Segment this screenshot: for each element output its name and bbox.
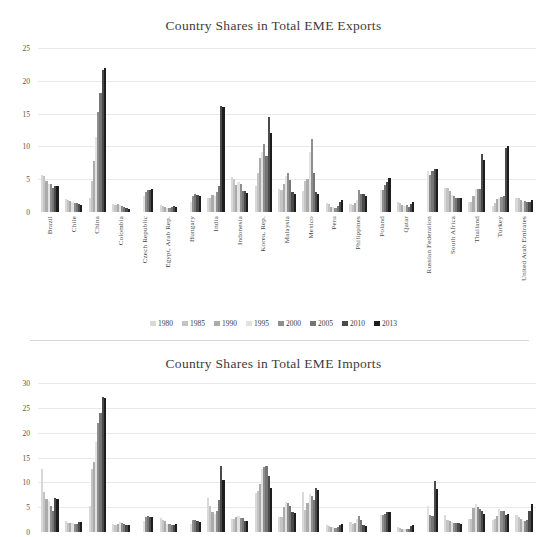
bar-philippines-2013 [365, 526, 367, 532]
x-axis-labels-exports: BrazilChileChinaColombiaCzech RepublicEg… [0, 216, 547, 316]
bar-group-egypt-arab-rep [160, 383, 178, 532]
bar-chile-2013 [80, 205, 82, 212]
x-tick-label-chile: Chile [70, 216, 78, 232]
legend-label: 2013 [382, 319, 397, 328]
bar-group-hungary [183, 383, 201, 532]
bar-india-2013 [222, 480, 224, 532]
bar-malaysia-2013 [294, 194, 296, 212]
x-tick-label-united-arab-emirates: United Arab Emirates [520, 216, 528, 281]
bar-china-2013 [104, 68, 106, 212]
bar-malaysia-2013 [294, 513, 296, 532]
bar-china-2013 [104, 398, 106, 532]
legend-exports: 19801985199019952000200520102013 [0, 319, 547, 328]
bar-group-thailand [468, 48, 486, 212]
bar-czech-republic-2013 [151, 189, 153, 212]
bar-group-south-africa [444, 48, 462, 212]
x-tick-label-mexico: Mexico [307, 216, 315, 239]
bar-south-africa-2013 [460, 524, 462, 532]
bar-chile-2013 [80, 522, 82, 532]
x-tick-label-india: India [212, 216, 220, 231]
bar-group-united-arab-emirates [515, 383, 533, 532]
bar-colombia-2013 [128, 209, 130, 212]
bar-group-peru [326, 48, 344, 212]
x-tick-label-brazil: Brazil [46, 216, 54, 234]
legend-item-2013[interactable]: 2013 [374, 319, 397, 328]
legend-label: 1995 [254, 319, 269, 328]
legend-item-1985[interactable]: 1985 [182, 319, 205, 328]
x-tick-label-malaysia: Malaysia [283, 216, 291, 243]
bar-group-hungary [183, 48, 201, 212]
bar-group-brazil [41, 383, 59, 532]
y-tick-label: 30 [6, 379, 30, 388]
bar-russian-federation-2013 [436, 169, 438, 212]
bar-group-czech-republic [136, 48, 154, 212]
bar-group-indonesia [231, 48, 249, 212]
x-tick-label-south-africa: South Africa [449, 216, 457, 254]
bar-turkey-2013 [507, 514, 509, 532]
bar-group-malaysia [278, 48, 296, 212]
bar-korea-rep-2013 [270, 488, 272, 532]
bar-indonesia-2013 [246, 193, 248, 212]
legend-swatch-icon [150, 321, 156, 327]
legend-label: 1985 [190, 319, 205, 328]
x-tick-label-thailand: Thailand [473, 216, 481, 242]
bar-group-russian-federation [421, 48, 439, 212]
bar-group-mexico [302, 383, 320, 532]
bar-mexico-2013 [317, 490, 319, 532]
y-tick-label: 25 [6, 44, 30, 53]
x-tick-label-egypt-arab-rep: Egypt, Arab Rep. [164, 216, 172, 268]
y-tick-label: 20 [6, 76, 30, 85]
bar-thailand-2013 [483, 160, 485, 212]
legend-item-2000[interactable]: 2000 [278, 319, 301, 328]
legend-item-1990[interactable]: 1990 [214, 319, 237, 328]
bar-group-india [207, 383, 225, 532]
y-tick-label: 10 [6, 142, 30, 151]
bar-group-czech-republic [136, 383, 154, 532]
panel-divider [30, 340, 529, 341]
chart-title-exports: Country Shares in Total EME Exports [0, 18, 547, 34]
bar-group-poland [373, 383, 391, 532]
bar-group-china [89, 48, 107, 212]
legend-item-2010[interactable]: 2010 [342, 319, 365, 328]
y-axis-imports: 051015202530 [0, 383, 30, 532]
x-tick-label-poland: Poland [378, 216, 386, 237]
bar-group-korea-rep [255, 48, 273, 212]
legend-swatch-icon [246, 321, 252, 327]
x-tick-label-korea-rep: Korea, Rep. [259, 216, 267, 252]
bar-group-philippines [349, 48, 367, 212]
bar-south-africa-2013 [460, 198, 462, 212]
bar-series-exports [38, 48, 536, 212]
x-tick-label-hungary: Hungary [188, 216, 196, 242]
bar-czech-republic-2013 [151, 517, 153, 532]
chart-title-imports: Country Shares in Total EME Imports [0, 356, 547, 372]
legend-label: 2010 [350, 319, 365, 328]
legend-item-1980[interactable]: 1980 [150, 319, 173, 328]
x-tick-label-russian-federation: Russian Federation [425, 216, 433, 273]
bar-group-indonesia [231, 383, 249, 532]
chart-panel-imports: Country Shares in Total EME Imports 0510… [0, 340, 547, 532]
y-tick-label: 5 [6, 175, 30, 184]
legend-item-2005[interactable]: 2005 [310, 319, 333, 328]
legend-item-1995[interactable]: 1995 [246, 319, 269, 328]
x-tick-label-indonesia: Indonesia [236, 216, 244, 245]
bar-thailand-2013 [483, 514, 485, 532]
bar-poland-2013 [388, 512, 390, 532]
bar-group-china [89, 383, 107, 532]
bar-hungary-2013 [199, 196, 201, 212]
legend-swatch-icon [342, 321, 348, 327]
bar-egypt-arab-rep-2013 [175, 207, 177, 212]
bar-turkey-2013 [507, 146, 509, 212]
bar-india-2013 [222, 107, 224, 212]
bar-peru-2013 [341, 524, 343, 532]
bar-group-india [207, 48, 225, 212]
bar-group-united-arab-emirates [515, 48, 533, 212]
legend-swatch-icon [310, 321, 316, 327]
bar-series-imports [38, 383, 536, 532]
bar-egypt-arab-rep-2013 [175, 524, 177, 532]
legend-swatch-icon [278, 321, 284, 327]
legend-label: 1990 [222, 319, 237, 328]
bar-group-qatar [397, 383, 415, 532]
bar-peru-2013 [341, 200, 343, 212]
bar-group-chile [65, 383, 83, 532]
legend-swatch-icon [374, 321, 380, 327]
